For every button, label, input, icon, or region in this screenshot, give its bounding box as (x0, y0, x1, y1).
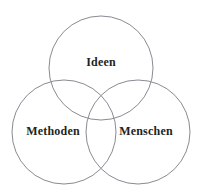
venn-label-ideen: Ideen (86, 56, 116, 68)
venn-label-menschen: Menschen (119, 125, 173, 137)
venn-circles-group (0, 0, 201, 196)
venn-label-methoden: Methoden (26, 125, 80, 137)
venn-diagram-canvas: Ideen Methoden Menschen (0, 0, 201, 196)
